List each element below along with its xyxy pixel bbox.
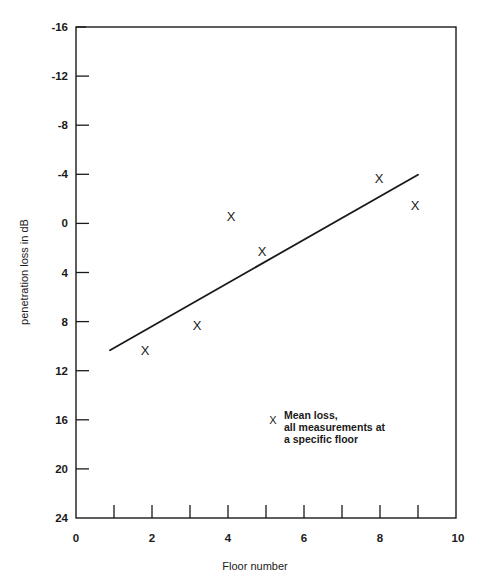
x-axis-tick-labels: 0 2 4 6 8 10 bbox=[73, 532, 465, 544]
x-tick-label-6: 6 bbox=[301, 532, 307, 544]
y-tick-label--16: -16 bbox=[51, 21, 68, 33]
y-axis-ticks bbox=[76, 27, 89, 469]
data-point-marker: X bbox=[258, 244, 267, 259]
y-tick-label--12: -12 bbox=[51, 70, 68, 82]
y-tick-label--4: -4 bbox=[58, 168, 69, 180]
figure-container: -16 -12 -8 -4 0 4 8 12 16 20 24 0 2 4 6 … bbox=[0, 0, 485, 585]
plot-frame bbox=[76, 27, 456, 518]
data-point-marker: X bbox=[411, 198, 420, 213]
legend-line-2: all measurements at bbox=[284, 421, 385, 433]
x-tick-label-10: 10 bbox=[452, 532, 465, 544]
data-point-marker: X bbox=[227, 209, 236, 224]
x-tick-label-8: 8 bbox=[377, 532, 384, 544]
y-axis-tick-labels: -16 -12 -8 -4 0 4 8 12 16 20 24 bbox=[51, 21, 68, 524]
data-point-marker: X bbox=[193, 318, 202, 333]
data-points: X X X X X X bbox=[141, 171, 420, 358]
y-tick-label-12: 12 bbox=[55, 365, 68, 377]
regression-line bbox=[110, 175, 418, 351]
y-tick-label-8: 8 bbox=[62, 316, 69, 328]
y-tick-label-20: 20 bbox=[55, 463, 68, 475]
legend-marker-icon: X bbox=[269, 414, 277, 426]
y-tick-label-16: 16 bbox=[55, 414, 68, 426]
y-tick-label--8: -8 bbox=[58, 119, 69, 131]
x-tick-label-4: 4 bbox=[225, 532, 232, 544]
y-axis-title: penetration loss in dB bbox=[18, 219, 30, 325]
x-axis-title: Floor number bbox=[222, 560, 288, 572]
data-point-marker: X bbox=[375, 171, 384, 186]
y-tick-label-0: 0 bbox=[62, 217, 68, 229]
y-tick-label-24: 24 bbox=[55, 512, 68, 524]
y-tick-label-4: 4 bbox=[62, 267, 69, 279]
legend-line-3: a specific floor bbox=[284, 433, 358, 445]
legend: X Mean loss, all measurements at a speci… bbox=[269, 409, 385, 445]
x-tick-label-2: 2 bbox=[149, 532, 155, 544]
data-point-marker: X bbox=[141, 343, 150, 358]
x-tick-label-0: 0 bbox=[73, 532, 79, 544]
legend-line-1: Mean loss, bbox=[284, 409, 338, 421]
penetration-loss-chart: -16 -12 -8 -4 0 4 8 12 16 20 24 0 2 4 6 … bbox=[0, 0, 485, 585]
x-axis-ticks bbox=[114, 505, 418, 518]
